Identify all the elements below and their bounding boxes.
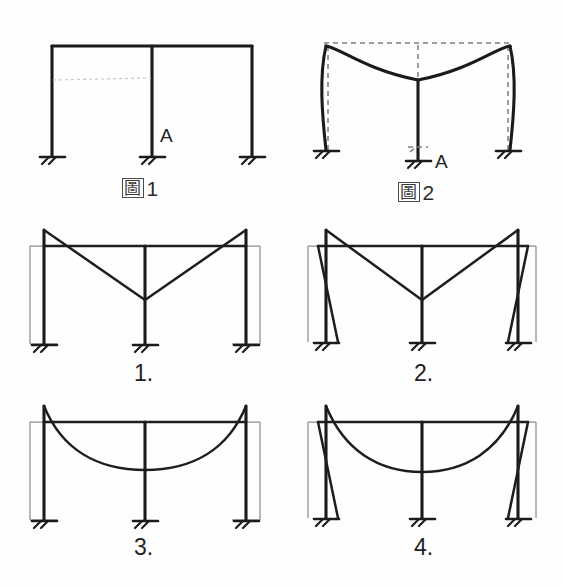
option-4-support-middle — [410, 519, 435, 526]
option-3-label: 3. — [134, 534, 153, 561]
figure-2-support-middle — [406, 161, 431, 168]
option-4-panel — [298, 398, 553, 538]
figure-2-deformed-column-right — [510, 46, 514, 150]
figure-1-caption: 圖1 — [122, 178, 159, 199]
option-3-support-right — [234, 521, 259, 528]
option-4-support-right — [506, 519, 531, 526]
option-1-support-middle — [133, 345, 158, 352]
figure-2-caption-cjk: 圖 — [398, 182, 420, 202]
figure-2-caption-number: 2 — [423, 181, 435, 204]
option-2-support-left — [314, 343, 339, 350]
figure-1-node-label-a: A — [160, 125, 173, 146]
option-1-label: 1. — [134, 360, 153, 387]
option-4-support-left — [314, 519, 339, 526]
diagram-sheet: A 圖1 — [0, 0, 563, 587]
figure-1-support-left — [40, 157, 65, 164]
option-2-panel — [298, 222, 553, 362]
figure-2-support-left — [314, 151, 339, 158]
figure-2-support-right — [496, 151, 521, 158]
option-3-panel — [18, 398, 278, 538]
figure-1-support-right — [240, 157, 265, 164]
figure-1-support-middle — [140, 157, 165, 164]
option-1-support-right — [234, 345, 259, 352]
option-3-support-middle — [133, 521, 158, 528]
option-1-panel — [18, 222, 278, 362]
scan-artifact — [53, 78, 151, 80]
option-4-label: 4. — [414, 534, 433, 561]
figure-2-deformed-column-left — [322, 46, 326, 150]
figure-2-panel: A — [300, 18, 550, 178]
option-2-column-left-deformed — [318, 246, 338, 342]
option-2-support-right — [506, 343, 531, 350]
figure-2-caption: 圖2 — [398, 182, 435, 203]
figure-2-node-label-a: A — [435, 151, 448, 172]
figure-1-caption-number: 1 — [147, 177, 159, 200]
figure-1-panel: A — [20, 18, 280, 178]
option-2-support-middle — [410, 343, 435, 350]
option-4-column-left-deformed — [318, 422, 338, 518]
option-3-support-left — [32, 521, 57, 528]
option-1-support-left — [32, 345, 57, 352]
option-2-label: 2. — [414, 360, 433, 387]
figure-1-caption-cjk: 圖 — [122, 178, 144, 198]
